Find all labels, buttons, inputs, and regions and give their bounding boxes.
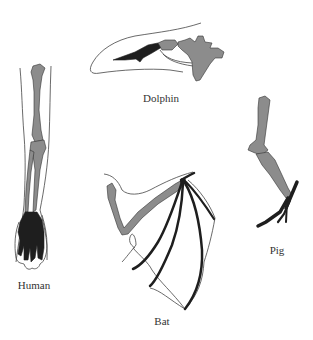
homology-diagram: Dolphin Human Bat Pig [0,0,313,340]
pig-label: Pig [270,245,285,256]
human-arm [15,64,51,269]
dolphin-flipper [90,23,224,81]
human-label: Human [18,280,50,291]
bat-wing [104,172,215,309]
bat-label: Bat [154,316,169,327]
pig-leg [248,96,297,226]
dolphin-label: Dolphin [143,93,179,104]
